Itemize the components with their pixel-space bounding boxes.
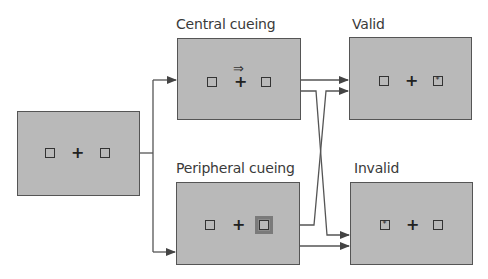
left-placeholder-box — [205, 220, 215, 230]
fixation-cross: + — [232, 217, 245, 233]
inner-placeholder-box — [259, 220, 269, 230]
peripheral-cueing-label: Peripheral cueing — [176, 160, 295, 176]
right-placeholder-box — [261, 77, 271, 87]
invalid-label: Invalid — [354, 160, 399, 176]
target-box: * — [433, 76, 443, 86]
fixation-cross: + — [406, 217, 419, 233]
target-star-icon: * — [383, 220, 387, 230]
invalid-panel: * + — [350, 182, 473, 265]
edge-peripheral-valid — [300, 91, 348, 225]
fixation-cross: + — [234, 74, 247, 90]
target-star-icon: * — [436, 76, 440, 86]
edge-central-invalid — [301, 91, 349, 235]
central-cueing-label: Central cueing — [176, 16, 275, 32]
fixation-panel: + — [17, 111, 140, 196]
left-placeholder-box — [45, 148, 55, 158]
peripheral-cueing-panel: + — [176, 182, 300, 265]
valid-label: Valid — [352, 16, 385, 32]
valid-panel: + * — [349, 37, 472, 120]
right-placeholder-box — [100, 148, 110, 158]
fixation-cross: + — [405, 73, 418, 89]
target-box: * — [380, 220, 390, 230]
left-placeholder-box — [207, 77, 217, 87]
right-placeholder-box — [433, 220, 443, 230]
central-cueing-panel: ⇒ + — [177, 38, 301, 120]
cued-highlighted-box — [255, 216, 273, 234]
fixation-cross: + — [71, 145, 84, 161]
left-placeholder-box — [379, 76, 389, 86]
